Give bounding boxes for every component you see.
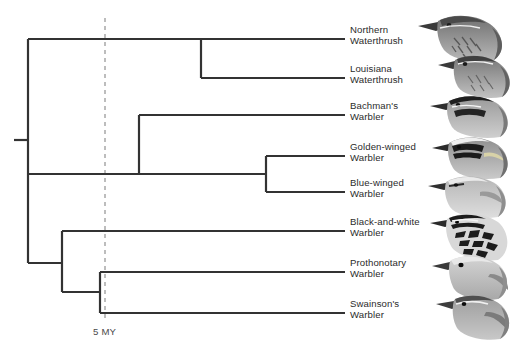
tip-label-blue-winged-warbler: Blue-winged Warbler [350,177,404,200]
tip-label-louisiana-waterthrush: Louisiana Waterthrush [350,63,403,86]
scale-label-5my: 5 MY [93,326,116,337]
tip-label-prothonotary-warbler: Prothonotary Warbler [350,257,406,280]
tip-label-bachmans-warbler: Bachman's Warbler [350,100,398,123]
tip-label-black-and-white-warbler: Black-and-white Warbler [350,216,420,239]
tip-label-northern-waterthrush: Northern Waterthrush [350,24,403,47]
tip-label-golden-winged-warbler: Golden-winged Warbler [350,141,416,164]
tip-label-swainsons-warbler: Swainson's Warbler [350,298,399,321]
phylogenetic-tree-figure: Northern Waterthrush Louisiana Waterthru… [0,0,516,352]
bird-illustration-swainsons-warbler [436,292,514,342]
